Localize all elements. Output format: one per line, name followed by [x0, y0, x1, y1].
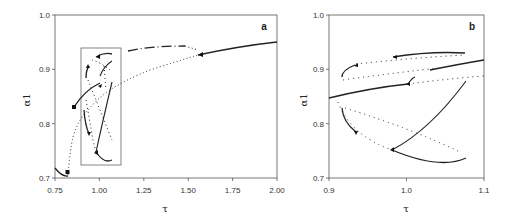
panel-a-y-ticks	[52, 15, 55, 178]
dotted-diagonal	[345, 108, 460, 152]
triangle-marker	[87, 132, 91, 136]
curve-top-loop	[393, 53, 465, 58]
panel-b-curves	[329, 53, 484, 163]
curve-stable-upper-dashdot	[128, 46, 185, 51]
panel-a-ylabel: α1	[21, 93, 32, 106]
square-marker	[66, 170, 70, 174]
curve-lower-loop	[392, 81, 466, 150]
panel-b-frame	[329, 15, 484, 178]
triangle-marker	[354, 131, 358, 135]
panel-b-ytick-2: 0.9	[313, 65, 325, 74]
panel-b-ytick-3: 0.8	[313, 120, 325, 129]
triangle-marker	[406, 82, 410, 86]
panel-a: 1.0 0.9 0.8 0.7 0.75 1.00 1.25 1.50 1.75…	[21, 11, 285, 214]
dotted-lower-left	[338, 102, 392, 150]
inset-long-loop	[96, 82, 112, 152]
curve-unstable-main	[68, 55, 198, 175]
curve-left-hook	[342, 65, 355, 77]
panel-b: 1.0 0.9 0.8 0.7 0.9 1.0 1.1 τ α1 b	[298, 11, 490, 214]
panel-a-ytick-3: 0.8	[39, 120, 51, 129]
panel-b-ylabel: α1	[298, 93, 309, 106]
panel-a-xtick-3: 1.25	[136, 186, 152, 195]
panel-a-xtick-4: 1.50	[180, 186, 196, 195]
curve-connector	[185, 46, 198, 50]
dotted-mid	[343, 68, 440, 80]
triangle-marker	[390, 147, 394, 152]
inset-bottom-arc	[96, 152, 112, 161]
curve-bottom	[392, 150, 466, 163]
panel-a-x-ticks	[55, 178, 277, 181]
panel-b-ytick-4: 0.7	[313, 174, 325, 183]
figure: 1.0 0.9 0.8 0.7 0.75 1.00 1.25 1.50 1.75…	[0, 0, 508, 218]
panel-b-y-ticks	[326, 15, 329, 178]
panel-a-curves	[55, 42, 277, 176]
panel-a-xtick-2: 1.00	[92, 186, 108, 195]
panel-b-xtick-2: 1.0	[401, 186, 413, 195]
panel-b-markers	[354, 55, 410, 152]
panel-a-xtick-6: 2.00	[269, 186, 285, 195]
panel-b-x-ticks	[329, 178, 484, 181]
triangle-marker	[86, 64, 90, 68]
triangle-marker	[98, 84, 102, 88]
dotted-upper	[356, 55, 465, 64]
panel-b-xtick-1: 0.9	[323, 186, 335, 195]
panel-b-xtick-3: 1.1	[478, 186, 490, 195]
panel-a-frame	[55, 15, 277, 178]
curve-stable-branch	[74, 83, 100, 107]
dotted-right	[408, 76, 484, 84]
curve-main-solid	[329, 84, 408, 98]
triangle-marker	[393, 55, 397, 59]
panel-a-ytick-1: 1.0	[39, 11, 51, 20]
panel-a-xtick-1: 0.75	[47, 186, 63, 195]
panel-a-letter: a	[261, 21, 267, 32]
panel-b-xlabel: τ	[403, 203, 409, 214]
panel-a-ytick-2: 0.9	[39, 65, 51, 74]
inset-lower-left	[84, 110, 89, 134]
inset-mid-arc	[100, 61, 112, 76]
square-marker	[72, 105, 76, 109]
panel-b-letter: b	[469, 21, 475, 32]
panel-a-inset-box	[81, 48, 121, 165]
panel-b-ytick-1: 1.0	[313, 11, 325, 20]
panel-a-markers	[66, 52, 204, 174]
panel-a-xlabel: τ	[162, 203, 168, 214]
panel-a-ytick-4: 0.7	[39, 174, 51, 183]
curve-lower-left	[342, 108, 356, 132]
curve-stable-upper	[198, 42, 277, 55]
panel-a-xtick-5: 1.75	[225, 186, 241, 195]
